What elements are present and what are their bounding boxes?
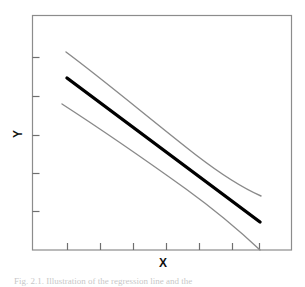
y-axis-label: Y xyxy=(12,124,24,144)
figure-caption: Fig. 2.1. Illustration of the regression… xyxy=(14,276,294,287)
x-axis-label: X xyxy=(143,257,183,269)
